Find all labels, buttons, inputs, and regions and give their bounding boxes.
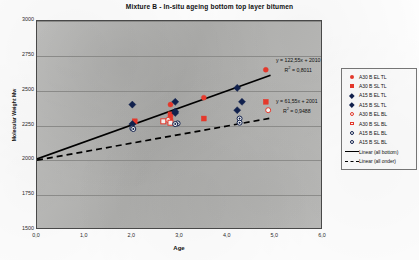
data-point (129, 101, 136, 108)
trendline-2-annotation: y = 61,55x + 2001 R2 = 0,9488 (276, 98, 318, 115)
legend-swatch (345, 151, 359, 152)
legend-marker-icon (345, 103, 359, 107)
data-point (263, 99, 268, 104)
x-tick-label: 1,0 (69, 232, 99, 238)
legend-item[interactable]: Linear (all bottom) (345, 147, 414, 156)
legend-marker-icon (345, 161, 359, 162)
x-tick-label: 6,0 (307, 232, 337, 238)
y-tick-label: 2000 (4, 156, 34, 161)
data-point (266, 108, 271, 113)
legend-swatch (350, 131, 354, 135)
legend-marker-icon (345, 84, 359, 88)
data-point (234, 107, 241, 114)
x-tick-label: 2,0 (116, 232, 146, 238)
chart-legend: A30 B EL TLA30 B SL TLA15 B EL TLA15 B S… (341, 68, 417, 170)
data-point (263, 67, 268, 72)
legend-swatch (349, 93, 354, 98)
legend-swatch (350, 122, 354, 126)
legend-marker-icon (345, 151, 359, 152)
legend-swatch (349, 102, 354, 107)
legend-item-label: Linear (all onder) (359, 158, 396, 164)
legend-item-label: A15 B SL BL (359, 139, 387, 145)
y-tick-label: 1500 (4, 226, 34, 231)
y-tick-label: 1750 (4, 191, 34, 196)
legend-marker-icon (345, 131, 359, 135)
legend-item[interactable]: A30 B EL BL (345, 110, 414, 119)
x-tick-label: 0,0 (21, 232, 51, 238)
x-axis-ticks: 0,01,02,03,04,05,06,0 (36, 232, 322, 242)
legend-item-label: A15 B SL TL (359, 102, 387, 108)
data-point-center (239, 118, 241, 120)
legend-swatch (350, 140, 354, 144)
data-point-center (239, 122, 241, 124)
y-tick-label: 2250 (4, 122, 34, 127)
legend-item-label: A30 B SL TL (359, 83, 387, 89)
x-tick-label: 3,0 (164, 232, 194, 238)
data-series-overlay (37, 21, 322, 229)
legend-swatch (345, 161, 359, 162)
legend-item[interactable]: A15 B EL TL (345, 91, 414, 100)
data-point (238, 98, 245, 105)
trendline-1-annotation: y = 122,55x + 2010 R2 = 0,8011 (276, 57, 320, 74)
chart-container: Mixture B - In-situ ageing bottom top la… (0, 0, 419, 260)
legend-marker-icon (345, 140, 359, 144)
trendline-1-equation: y = 122,55x + 2010 (276, 57, 320, 63)
legend-marker-icon (345, 94, 359, 98)
legend-item[interactable]: A15 B EL BL (345, 128, 414, 137)
y-tick-label: 3000 (4, 17, 34, 22)
data-point (161, 119, 166, 124)
trendline-2-r2: R2 = 0,9488 (276, 106, 318, 115)
legend-item-label: A15 B EL BL (359, 130, 387, 136)
series-a15-b-el-bl (130, 116, 242, 131)
chart-title: Mixture B - In-situ ageing bottom top la… (0, 3, 419, 10)
x-tick-label: 5,0 (259, 232, 289, 238)
data-point-center (132, 128, 134, 130)
data-point (201, 116, 206, 121)
data-point (168, 102, 173, 107)
trendline-1-r2: R2 = 0,8011 (276, 65, 320, 74)
legend-marker-icon (345, 112, 359, 116)
legend-item[interactable]: A15 B SL TL (345, 100, 414, 109)
legend-swatch (350, 112, 354, 116)
plot-area (36, 20, 322, 229)
legend-item-label: A30 B SL BL (359, 121, 387, 127)
x-tick-label: 4,0 (212, 232, 242, 238)
data-point (168, 120, 173, 125)
legend-marker-icon (345, 75, 359, 79)
legend-item[interactable]: Linear (all onder) (345, 157, 414, 166)
legend-item[interactable]: A30 B SL BL (345, 119, 414, 128)
y-tick-label: 2750 (4, 52, 34, 57)
legend-item[interactable]: A30 B EL TL (345, 72, 414, 81)
series-a30-b-sl-tl (132, 99, 268, 124)
legend-item[interactable]: A15 B SL BL (345, 138, 414, 147)
legend-item-label: Linear (all bottom) (359, 149, 398, 155)
y-tick-label: 2500 (4, 87, 34, 92)
y-axis-ticks: 3000275025002250200017501500 (0, 20, 34, 229)
legend-item-label: A15 B EL TL (359, 92, 387, 98)
data-point (201, 95, 206, 100)
trendline-2 (37, 118, 271, 160)
trendline-2-equation: y = 61,55x + 2001 (276, 98, 318, 104)
x-axis-label: Age (36, 245, 322, 251)
legend-marker-icon (345, 122, 359, 126)
legend-swatch (350, 84, 354, 88)
legend-swatch (350, 75, 354, 79)
series-a15-b-sl-tl (129, 107, 241, 128)
legend-item-label: A30 B EL TL (359, 74, 387, 80)
data-point (234, 84, 241, 91)
data-point-center (174, 123, 176, 125)
legend-item[interactable]: A30 B SL TL (345, 81, 414, 90)
legend-item-label: A30 B EL BL (359, 111, 387, 117)
